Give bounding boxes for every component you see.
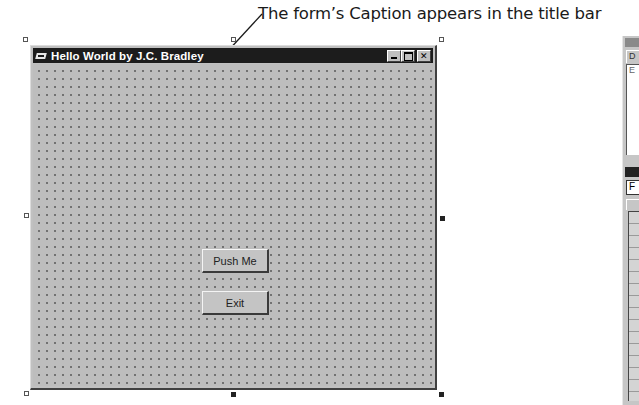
- properties-grid[interactable]: [628, 211, 639, 401]
- resize-handle-bottom-right[interactable]: [439, 392, 444, 397]
- title-bar-buttons: ✕: [387, 50, 431, 62]
- properties-window-titlebar[interactable]: [625, 167, 639, 177]
- resize-handle-bottom-left[interactable]: [24, 391, 29, 396]
- form-icon: [36, 51, 48, 61]
- minimize-icon[interactable]: [387, 50, 401, 62]
- resize-handle-top-middle[interactable]: [231, 37, 236, 42]
- project-window-titlebar[interactable]: [625, 38, 639, 47]
- resize-handle-top-right[interactable]: [439, 37, 444, 42]
- close-icon[interactable]: ✕: [417, 50, 431, 62]
- properties-object-dropdown[interactable]: F: [626, 180, 639, 195]
- push-me-button[interactable]: Push Me: [202, 249, 269, 273]
- form-client-area[interactable]: Push Me Exit: [33, 64, 433, 386]
- form-titlebar[interactable]: Hello World by J.C. Bradley ✕: [33, 48, 433, 63]
- form-caption: Hello World by J.C. Bradley: [51, 50, 204, 62]
- project-window-toolbar[interactable]: D: [626, 50, 639, 63]
- properties-tab[interactable]: [626, 199, 639, 210]
- exit-button[interactable]: Exit: [202, 291, 269, 315]
- maximize-icon[interactable]: [401, 50, 415, 62]
- ide-side-panel: D E F: [622, 36, 639, 405]
- resize-handle-middle-right[interactable]: [440, 216, 445, 221]
- resize-handle-bottom-middle[interactable]: [231, 392, 236, 397]
- annotation-caption-note: The form’s Caption appears in the title …: [258, 4, 601, 23]
- resize-handle-middle-left[interactable]: [24, 213, 29, 218]
- form-designer-window[interactable]: Hello World by J.C. Bradley ✕ Push Me Ex…: [30, 45, 437, 390]
- project-explorer-tree[interactable]: E: [626, 64, 639, 155]
- resize-handle-top-left[interactable]: [23, 37, 28, 42]
